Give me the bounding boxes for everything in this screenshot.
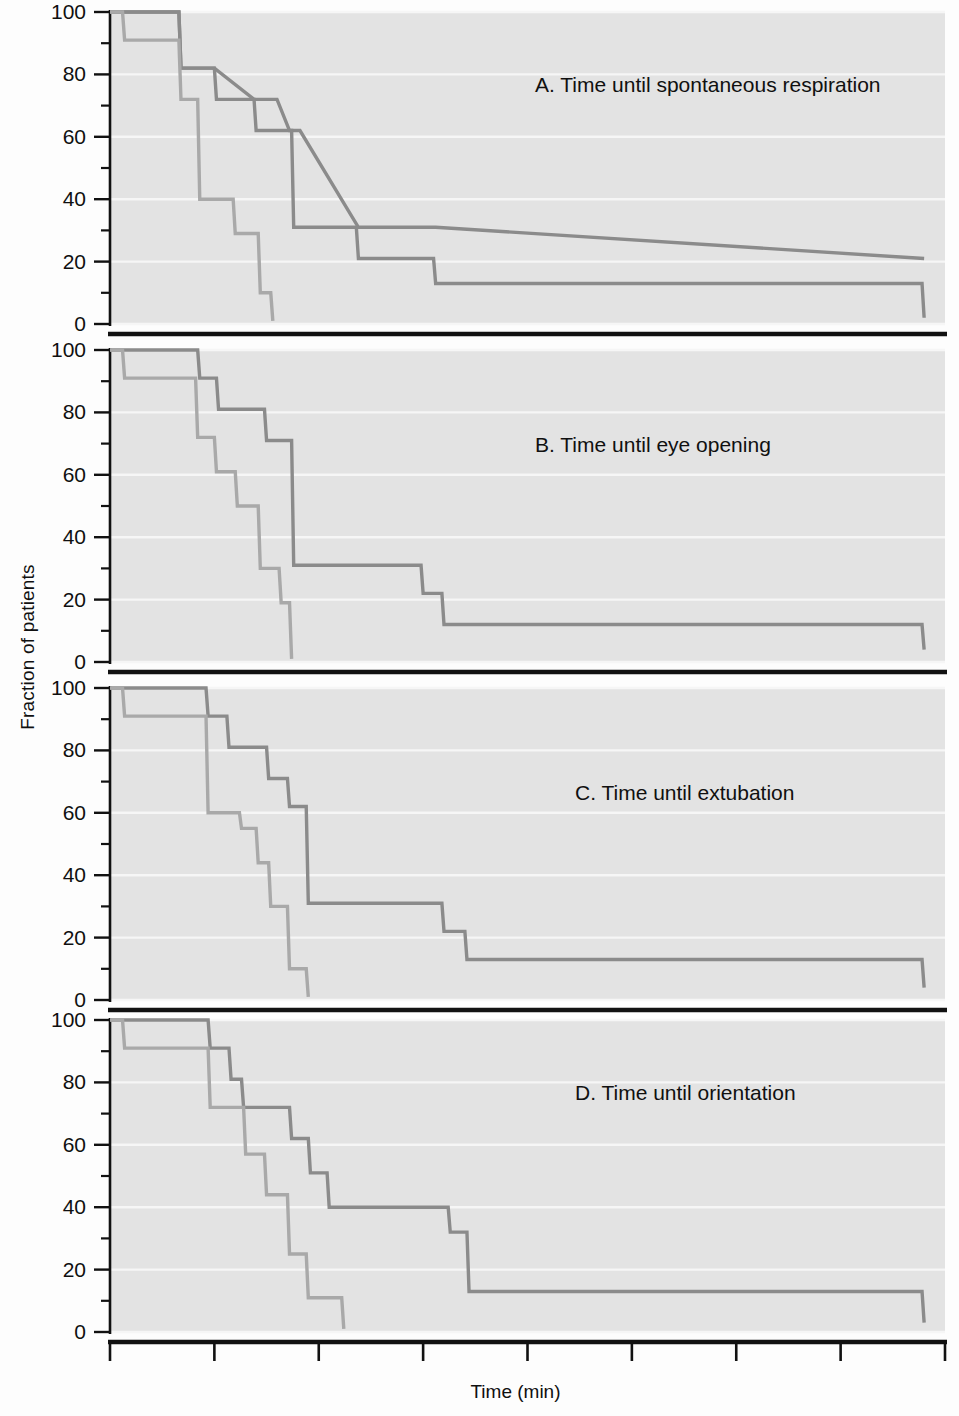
- y-tick-label: 20: [63, 250, 86, 273]
- x-axis-group: 0510152025303540: [104, 1344, 957, 1370]
- x-axis-title-text: Time (min): [470, 1381, 560, 1402]
- y-tick-label: 40: [63, 187, 86, 210]
- plot-background: [110, 12, 945, 324]
- panel-label: C. Time until extubation: [575, 781, 794, 804]
- y-tick-label: 0: [74, 650, 86, 673]
- figure-container: Fraction of patients 020406080100A. Time…: [0, 0, 959, 1416]
- plot-background: [110, 350, 945, 662]
- panel-label: A. Time until spontaneous respiration: [535, 73, 881, 96]
- y-tick-label: 100: [51, 0, 86, 23]
- y-tick-label: 60: [63, 125, 86, 148]
- y-tick-label: 40: [63, 525, 86, 548]
- panels-svg: 020406080100A. Time until spontaneous re…: [0, 0, 959, 1370]
- panel-c: 020406080100C. Time until extubation: [51, 676, 947, 1011]
- panel-label: D. Time until orientation: [575, 1081, 796, 1104]
- y-tick-label: 40: [63, 1195, 86, 1218]
- y-tick-label: 80: [63, 738, 86, 761]
- y-tick-label: 100: [51, 676, 86, 699]
- panel-a: 020406080100A. Time until spontaneous re…: [51, 0, 947, 335]
- panel-b: 020406080100B. Time until eye opening: [51, 338, 947, 673]
- y-tick-label: 80: [63, 62, 86, 85]
- y-tick-label: 80: [63, 1070, 86, 1093]
- panel-label: B. Time until eye opening: [535, 433, 771, 456]
- y-tick-label: 20: [63, 588, 86, 611]
- y-tick-label: 20: [63, 926, 86, 949]
- y-tick-label: 60: [63, 801, 86, 824]
- y-tick-label: 60: [63, 463, 86, 486]
- panel-d: 020406080100D. Time until orientation: [51, 1008, 947, 1343]
- y-tick-label: 20: [63, 1258, 86, 1281]
- y-tick-label: 80: [63, 400, 86, 423]
- y-tick-label: 100: [51, 1008, 86, 1031]
- y-tick-label: 40: [63, 863, 86, 886]
- y-tick-label: 0: [74, 312, 86, 335]
- y-tick-label: 0: [74, 1320, 86, 1343]
- plot-background: [110, 688, 945, 1000]
- plot-background: [110, 1020, 945, 1332]
- y-axis-title: Fraction of patients: [17, 527, 39, 767]
- x-axis-title: Time (min): [0, 1381, 959, 1403]
- y-tick-label: 60: [63, 1133, 86, 1156]
- y-tick-label: 100: [51, 338, 86, 361]
